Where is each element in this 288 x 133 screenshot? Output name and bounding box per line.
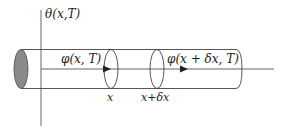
diagram-graphics xyxy=(0,0,288,133)
position-label-x: x xyxy=(107,92,113,103)
heat-flow-cylinder-diagram: θ(x,T) φ(x, T) φ(x + δx, T) x x+δx xyxy=(0,0,288,133)
axis-label-theta: θ(x,T) xyxy=(45,8,80,20)
flux-arrow-left-icon xyxy=(103,66,111,73)
cylinder-left-end-cap xyxy=(14,50,28,89)
flux-label-left: φ(x, T) xyxy=(61,53,101,65)
flux-arrow-right-icon xyxy=(180,66,188,73)
flux-label-right: φ(x + δx, T) xyxy=(167,53,239,65)
position-label-x-dx: x+δx xyxy=(141,92,169,103)
